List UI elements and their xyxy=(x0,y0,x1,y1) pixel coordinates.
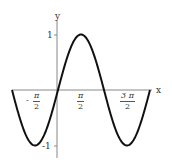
x-tick-3pi-over-2: 3 π2 xyxy=(120,92,135,111)
y-axis-label: y xyxy=(55,12,60,21)
x-tick-1-sign: - xyxy=(26,97,29,105)
x-tick-pi-over-2: π2 xyxy=(77,92,84,111)
y-tick-minus-1: -1 xyxy=(42,142,51,151)
plot-area xyxy=(0,0,172,168)
x-axis-label: x xyxy=(156,86,161,95)
y-tick-1: 1 xyxy=(47,31,53,40)
x-tick-minus-pi-over-2: π2 xyxy=(33,92,40,111)
